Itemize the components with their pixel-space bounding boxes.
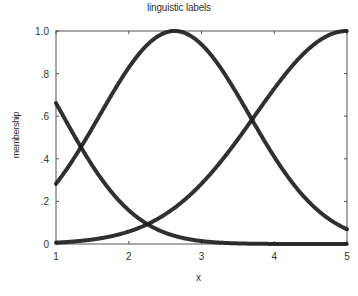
curve-medium (56, 31, 347, 229)
x-tick-label: 4 (271, 251, 277, 262)
x-tick-label: 3 (199, 251, 205, 262)
x-tick-label: 5 (344, 251, 350, 262)
x-tick-label: 1 (53, 251, 59, 262)
y-tick-label: 1.0 (35, 26, 49, 37)
y-tick-label: .8 (41, 69, 50, 80)
y-tick-label: 0 (43, 239, 49, 250)
curve-low (56, 103, 347, 244)
curve-high (56, 31, 347, 243)
membership-curves (56, 31, 347, 244)
y-tick-label: .4 (41, 154, 50, 165)
plot-area: 0.2.4.6.81.0 12345 (0, 0, 358, 296)
x-tick-label: 2 (126, 251, 132, 262)
y-tick-label: .2 (41, 196, 50, 207)
x-axis-ticks: 12345 (53, 31, 350, 262)
plot-frame (56, 31, 347, 244)
axes-frame (56, 31, 347, 244)
y-tick-label: .6 (41, 111, 50, 122)
